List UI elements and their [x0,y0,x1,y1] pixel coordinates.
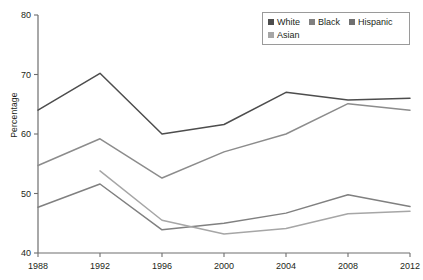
series-line-hispanic [100,171,410,234]
legend-label: Asian [277,30,300,40]
line-chart: 4050607080 1988199219962000200420082012 … [0,0,423,280]
y-axis-title: Percentage [9,75,19,155]
series-line-asian [38,104,410,178]
x-tick-label: 2008 [338,261,358,271]
y-tick-label: 40 [21,248,31,258]
legend-swatch-icon [309,19,315,25]
y-tick-label: 50 [21,189,31,199]
series-lines [38,73,410,234]
legend-entry-asian: Asian [268,30,300,40]
y-axis-ticks: 4050607080 [21,10,38,258]
x-tick-label: 1996 [152,261,172,271]
x-tick-label: 2012 [400,261,420,271]
series-line-black [38,184,410,230]
legend-label: White [277,17,300,27]
x-axis-ticks: 1988199219962000200420082012 [28,253,420,271]
y-tick-label: 80 [21,10,31,20]
legend-label: Black [318,17,340,27]
legend-label: Hispanic [358,17,393,27]
y-tick-label: 60 [21,129,31,139]
legend-row: White Black Hispanic [268,17,404,27]
x-tick-label: 1988 [28,261,48,271]
x-tick-label: 2000 [214,261,234,271]
legend-entry-hispanic: Hispanic [349,17,393,27]
chart-legend: White Black Hispanic Asian [262,12,410,45]
x-tick-label: 1992 [90,261,110,271]
legend-entry-black: Black [309,17,340,27]
legend-swatch-icon [268,32,274,38]
legend-entry-white: White [268,17,300,27]
legend-row: Asian [268,30,404,40]
x-tick-label: 2004 [276,261,296,271]
legend-swatch-icon [268,19,274,25]
legend-swatch-icon [349,19,355,25]
y-tick-label: 70 [21,70,31,80]
